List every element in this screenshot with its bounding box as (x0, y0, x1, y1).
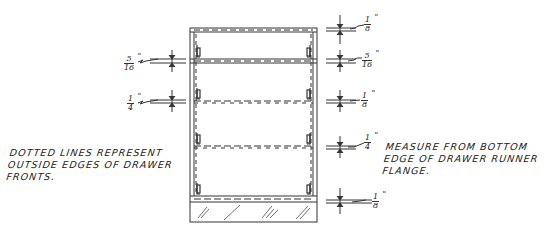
cabinet-elevation-drawing (0, 0, 559, 234)
dim-upper-left: 5 16 " (124, 55, 134, 72)
runner-brackets (197, 45, 310, 194)
toe-kick (198, 205, 310, 220)
dim-marker-middle-left (138, 90, 186, 112)
note-right: Measure From Bottom Edge of Drawer Runne… (381, 141, 540, 177)
note-right-line-2: Edge of Drawer Runner (383, 153, 539, 165)
bottom-rail (190, 196, 317, 202)
note-left-line-1: Dotted Lines Represent (9, 147, 175, 159)
cabinet-frame (190, 28, 317, 222)
dim-bottom-right: 1 8 " (372, 193, 379, 210)
dim-middle-left: 1 4 " (127, 95, 134, 112)
dim-marker-lower-right (326, 136, 364, 158)
top-rail (190, 59, 317, 63)
note-left-line-2: Outside Edges of Drawer (7, 159, 173, 171)
note-left: Dotted Lines Represent Outside Edges of … (5, 147, 175, 183)
note-left-line-3: Fronts. (5, 171, 171, 183)
dim-middle-right: 1 8 " (361, 92, 368, 109)
dim-top-right: 1 8 " (364, 16, 371, 33)
note-right-line-1: Measure From Bottom (385, 141, 541, 153)
dim-marker-upper-left (138, 50, 186, 72)
dim-marker-middle-right (326, 90, 360, 112)
drawer-divider-2 (194, 146, 313, 148)
dim-upper-right: 5 16 " (362, 52, 372, 69)
drawer-divider-1 (194, 101, 313, 103)
note-right-line-3: Flange. (381, 165, 537, 177)
dim-marker-top-right (326, 15, 364, 44)
dim-marker-bottom-right (326, 188, 372, 214)
dim-marker-upper-right (326, 50, 362, 72)
dim-lower-right: 1 4 " (364, 134, 371, 151)
